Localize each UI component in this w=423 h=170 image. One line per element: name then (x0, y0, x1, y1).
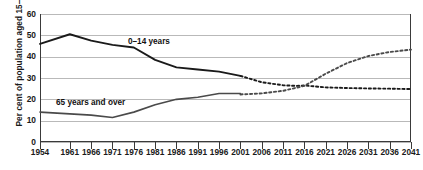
y-axis-tick-label: 60 (14, 10, 36, 18)
chart-container: Per cent of population aged 15–64 years … (0, 0, 423, 170)
y-axis-tick-label: 30 (14, 74, 36, 82)
y-axis-tick-label: 10 (14, 116, 36, 124)
x-axis-tick-label: 1954 (25, 148, 55, 156)
y-axis-tick-label: 40 (14, 52, 36, 60)
y-axis-tick-label: 0 (14, 138, 36, 146)
series-label-old: 65 years and over (56, 98, 125, 107)
y-axis-tick-label: 20 (14, 95, 36, 103)
gridline (40, 142, 411, 143)
y-axis-tick-label: 50 (14, 31, 36, 39)
y-axis-tick-labels: 0102030405060 (12, 0, 36, 170)
x-axis-tick-labels: 1954196119661971197619811986199119962001… (0, 148, 423, 162)
series-label-young: 0–14 years (128, 37, 170, 46)
series-line-young-projected (240, 76, 411, 89)
plot-area (40, 14, 411, 142)
series-lines (40, 14, 411, 142)
x-axis-tick-label: 2041 (396, 148, 423, 156)
